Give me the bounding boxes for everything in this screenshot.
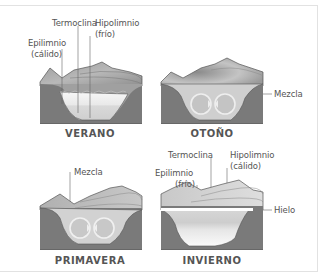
season-label-invierno: INVIERNO (157, 255, 267, 266)
lake-spring-illustration (40, 182, 142, 250)
season-label-primavera: PRIMAVERA (35, 255, 145, 266)
lake-autumn-illustration (161, 56, 263, 124)
label-hielo-winter: Hielo (274, 205, 295, 215)
label-epilimnio-temp-winter: (frío) (175, 179, 195, 189)
label-epilimnio-winter: Epilimnio (155, 168, 193, 178)
label-mezcla-spring: Mezcla (74, 167, 103, 177)
label-termoclina-winter: Termoclina (168, 150, 213, 160)
label-hipolimnio-temp-summer: (frío) (95, 29, 115, 39)
label-epilimnio-temp-summer: (cálido) (31, 49, 62, 59)
season-label-otono: OTOÑO (157, 128, 267, 139)
label-mezcla-autumn: Mezcla (274, 89, 303, 99)
label-hipolimnio-winter: Hipolimnio (230, 150, 274, 160)
label-hipolimnio-temp-winter: (cálido) (230, 161, 261, 171)
label-termoclina-summer: Termoclina (52, 18, 97, 28)
season-label-verano: VERANO (35, 128, 145, 139)
lake-winter-illustration (161, 180, 263, 250)
label-epilimnio-summer: Epilimnio (28, 38, 66, 48)
label-hipolimnio-summer: Hipolimnio (95, 18, 139, 28)
